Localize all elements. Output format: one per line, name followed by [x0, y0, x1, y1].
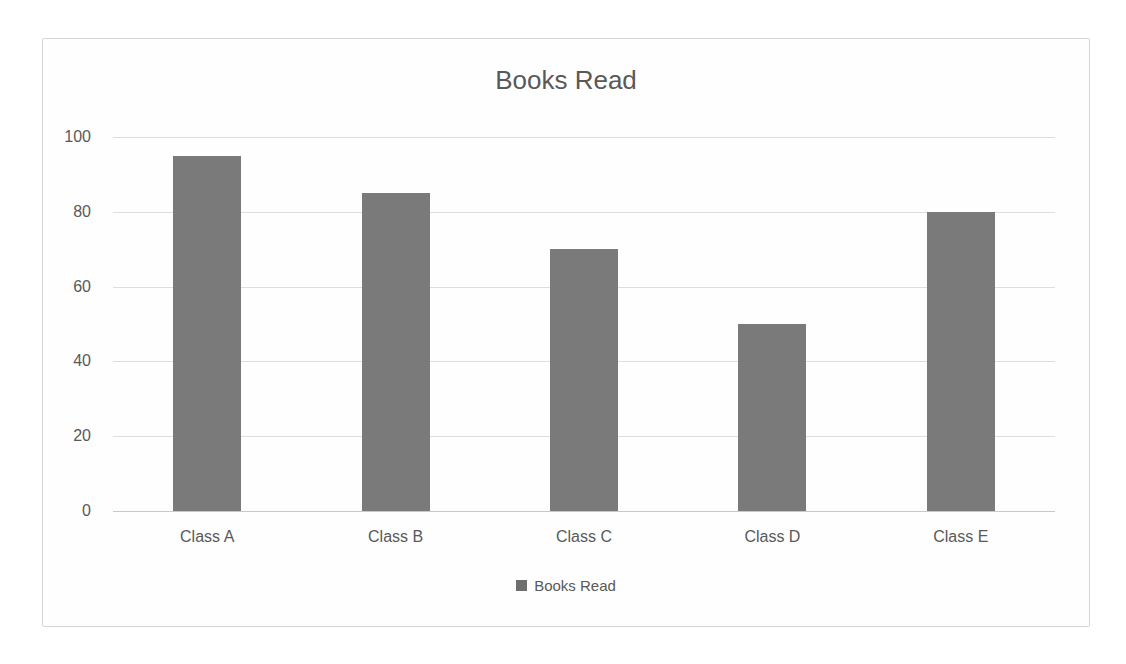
- y-tick-label: 40: [43, 352, 91, 370]
- y-tick-label: 80: [43, 203, 91, 221]
- x-tick-label: Class C: [490, 527, 678, 547]
- y-tick-label: 0: [43, 502, 91, 520]
- chart-container: Books Read 020406080100Class AClass BCla…: [42, 38, 1090, 627]
- legend-swatch-icon: [516, 580, 527, 591]
- x-tick-label: Class B: [301, 527, 489, 547]
- gridline: [113, 137, 1055, 138]
- legend: Books Read: [43, 577, 1089, 594]
- chart-title: Books Read: [43, 65, 1089, 96]
- bar-class-b: [362, 193, 430, 511]
- plot-area: 020406080100Class AClass BClass CClass D…: [113, 137, 1055, 511]
- x-axis-line: [113, 511, 1055, 512]
- gridline: [113, 212, 1055, 213]
- bar-class-d: [738, 324, 806, 511]
- bar-class-a: [173, 156, 241, 511]
- x-tick-label: Class A: [113, 527, 301, 547]
- bar-class-e: [927, 212, 995, 511]
- x-tick-label: Class E: [867, 527, 1055, 547]
- legend-label: Books Read: [534, 577, 616, 594]
- y-tick-label: 60: [43, 278, 91, 296]
- y-tick-label: 20: [43, 427, 91, 445]
- y-tick-label: 100: [43, 128, 91, 146]
- x-tick-label: Class D: [678, 527, 866, 547]
- bar-class-c: [550, 249, 618, 511]
